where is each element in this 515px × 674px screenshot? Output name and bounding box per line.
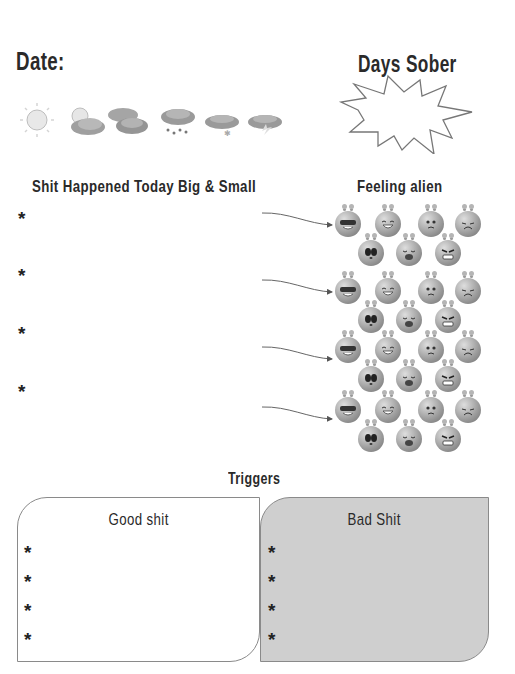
- arrow-icon: [262, 407, 332, 419]
- alien-sad-icon[interactable]: [455, 397, 481, 423]
- good-bullet-3: *: [24, 601, 31, 620]
- bullet-4: *: [18, 382, 25, 401]
- alien-angry-icon[interactable]: [435, 366, 461, 392]
- alien-laughing-icon[interactable]: [375, 211, 401, 237]
- partly-cloudy-icon[interactable]: [71, 108, 105, 135]
- alien-worried-icon[interactable]: [418, 397, 444, 423]
- sun-icon[interactable]: [20, 103, 54, 137]
- alien-laughing-icon[interactable]: [375, 337, 401, 363]
- alien-cool-icon[interactable]: [335, 278, 361, 304]
- storm-icon[interactable]: [248, 115, 282, 135]
- bad-bullet-1: *: [268, 543, 275, 562]
- good-shit-box[interactable]: Good shit * * * *: [17, 497, 260, 662]
- cloudy-icon[interactable]: [108, 108, 148, 134]
- arrows: [258, 200, 338, 430]
- alien-shocked-icon[interactable]: [358, 366, 384, 392]
- alien-angry-icon[interactable]: [435, 426, 461, 452]
- shit-happened-heading: Shit Happened Today Big & Small: [32, 177, 256, 197]
- bad-bullet-3: *: [268, 601, 275, 620]
- alien-angry-icon[interactable]: [435, 307, 461, 333]
- triggers-heading: Triggers: [228, 470, 280, 488]
- alien-laughing-icon[interactable]: [375, 278, 401, 304]
- snow-icon[interactable]: ✱: [205, 115, 239, 138]
- arrow-icon: [262, 213, 332, 225]
- alien-shocked-icon[interactable]: [358, 307, 384, 333]
- bullet-2: *: [18, 266, 25, 285]
- date-label: Date:: [16, 46, 65, 77]
- alien-cool-icon[interactable]: [335, 337, 361, 363]
- alien-sad-icon[interactable]: [455, 337, 481, 363]
- alien-shocked-icon[interactable]: [358, 240, 384, 266]
- arrow-icon: [262, 280, 332, 292]
- alien-shocked-icon[interactable]: [358, 426, 384, 452]
- weather-row: ✱: [16, 100, 286, 140]
- alien-cool-icon[interactable]: [335, 211, 361, 237]
- good-shit-title: Good shit: [108, 510, 168, 530]
- alien-crying-icon[interactable]: [396, 240, 422, 266]
- bullet-1: *: [18, 209, 25, 228]
- alien-crying-icon[interactable]: [396, 366, 422, 392]
- bad-shit-box[interactable]: Bad Shit * * * *: [260, 497, 489, 662]
- alien-crying-icon[interactable]: [396, 307, 422, 333]
- starburst-icon: [338, 74, 480, 154]
- arrow-icon: [262, 347, 332, 359]
- svg-text:✱: ✱: [224, 129, 231, 138]
- alien-laughing-icon[interactable]: [375, 397, 401, 423]
- feeling-alien-heading: Feeling alien: [357, 177, 442, 197]
- alien-worried-icon[interactable]: [418, 211, 444, 237]
- bad-bullet-2: *: [268, 572, 275, 591]
- alien-cool-icon[interactable]: [335, 397, 361, 423]
- bullet-3: *: [18, 324, 25, 343]
- good-bullet-4: *: [24, 630, 31, 649]
- alien-worried-icon[interactable]: [418, 337, 444, 363]
- alien-sad-icon[interactable]: [455, 211, 481, 237]
- alien-worried-icon[interactable]: [418, 278, 444, 304]
- rain-icon[interactable]: [161, 109, 195, 135]
- alien-sad-icon[interactable]: [455, 278, 481, 304]
- bad-shit-title: Bad Shit: [348, 510, 401, 530]
- alien-crying-icon[interactable]: [396, 426, 422, 452]
- good-bullet-1: *: [24, 543, 31, 562]
- good-bullet-2: *: [24, 572, 31, 591]
- bad-bullet-4: *: [268, 630, 275, 649]
- alien-angry-icon[interactable]: [435, 240, 461, 266]
